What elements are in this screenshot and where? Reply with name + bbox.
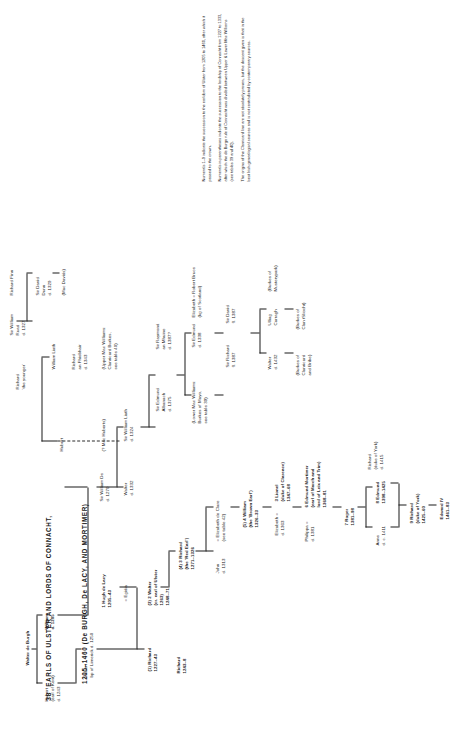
node-sir-david-1387: Sir David fl. 1387 <box>224 305 236 323</box>
node-william-1205: William d. 1205 <box>43 613 55 629</box>
node-sir-edmund-1338: Sir Edmund d. 1338 <box>190 323 202 347</box>
connector <box>428 504 436 505</box>
note-2: Numerals in parentheses indicate the suc… <box>216 13 234 181</box>
chart-title: 38 EARLS OF ULSTER AND LORDS OF CONNACHT… <box>18 503 108 731</box>
connector <box>75 649 76 683</box>
chart-canvas: 38 EARLS OF ULSTER AND LORDS OF CONNACHT… <box>0 0 475 741</box>
connector <box>365 486 372 487</box>
node-walter-1432: Walter d. 1432 <box>266 354 278 369</box>
node-william-brown-earl: (5) 4 William (the 'Brown Earl') 1326–33 <box>241 490 259 527</box>
node-john-de-burgh: John d. 1313 <box>214 558 226 573</box>
chart-notes: Numerals 1–9 indicate the succession to … <box>200 13 255 181</box>
connector <box>292 506 301 507</box>
connector <box>390 482 398 483</box>
node-edmund-mortimer: 6 Edmund Mortimer (earl of March and lor… <box>303 461 327 507</box>
connector <box>195 550 205 551</box>
node-richard-duke-york: 9 Richard (duke of York) 1425–60 <box>408 493 426 523</box>
node-upper-mac-williams: (Upper Mac Williams: Clanricard Burkes, … <box>100 326 118 369</box>
node-mac-hubert: (? Mac Huberts) <box>100 419 106 451</box>
node-ulliag-carragh: Ulliag Carragh <box>266 309 278 325</box>
connector <box>87 487 88 615</box>
connector <box>136 648 144 649</box>
node-richard-finn: Richard Finn <box>8 269 14 295</box>
node-richard-york-1415: Richard (duke of York) d. 1415 <box>366 441 384 469</box>
note-1: Numerals 1–9 indicate the succession to … <box>200 13 212 181</box>
connector <box>284 308 293 309</box>
connector <box>52 272 59 273</box>
connector <box>205 507 206 551</box>
connector <box>41 357 42 441</box>
connector <box>214 332 223 333</box>
node-mac-davids: (Mac Davids) <box>60 268 66 295</box>
connector <box>36 614 42 615</box>
connector <box>31 648 36 649</box>
node-richard-fhiobhair: Richard an Fhiobhair d. 1343 <box>70 344 88 369</box>
node-elizabeth-robert-bruce: Elizabeth = Robert Bruce (kg of Scotland… <box>190 267 202 318</box>
node-anne-1411: Anne d. c. 1411 <box>374 525 386 545</box>
connector <box>262 506 271 507</box>
connector <box>184 333 185 395</box>
connector <box>168 550 175 551</box>
connector <box>148 426 155 427</box>
connector <box>365 487 366 527</box>
node-walter-earl-ulster: (3) 2 Walter (cr. earl of Ulster 1263) 1… <box>146 569 170 605</box>
node-edmund-1398-1425: 8 Edmund 1398–1425 <box>374 480 386 503</box>
node-hubert-earl-kent: Hubert (earl of Kent) d. 1243 <box>43 675 61 701</box>
connector <box>398 504 406 505</box>
node-walter-de-burgh-top: Walter de Burgh <box>24 630 30 665</box>
dashed-connector <box>57 440 119 441</box>
node-walter-de-burgh-col: Walter d. 1332 <box>122 480 134 495</box>
node-egidia: = Egidia <box>122 584 128 601</box>
connector <box>284 352 293 353</box>
node-sir-william-ruad: Sir William Ruad d. 1327 <box>8 314 26 335</box>
title-line1: EARLS OF ULSTER AND LORDS OF CONNACHT, <box>44 515 51 686</box>
node-sir-william-liath: Sir William Liath d. 1324 <box>122 408 134 441</box>
connector <box>57 614 87 615</box>
connector <box>148 375 149 427</box>
connector <box>176 374 184 375</box>
genealogy-chart-page: 38 EARLS OF ULSTER AND LORDS OF CONNACHT… <box>0 0 475 741</box>
node-richard-1243-8: Richard 1243–8 <box>175 656 187 673</box>
node-sir-edmund-albanach: Sir Edmund Albanach d. 1375 <box>154 387 172 411</box>
connector <box>259 308 266 309</box>
node-sir-william-de: Sir William De d. 1270 <box>98 473 110 502</box>
node-sir-raymond-mhuine: Sir Raymond an Mhuine d. 1387? <box>154 323 172 349</box>
connector <box>41 440 57 441</box>
node-richard-red-earl: (4) 3 Richard (the 'Red Earl') 1271–1326 <box>177 537 195 569</box>
connector <box>26 272 32 273</box>
connector <box>148 374 155 375</box>
connector <box>214 394 223 395</box>
node-philippa-1381: Philippa = d. 1381 <box>303 521 315 541</box>
connector <box>75 648 81 649</box>
node-hugh-de-lacy: 1 Hugh de Lacy 1205–43 <box>100 574 112 607</box>
node-roger-1381-98: 7 Roger 1381–98 <box>343 507 355 525</box>
note-3: The origins of the Clanricard line are n… <box>239 13 251 181</box>
node-richard-younger: Richard 'the younger' <box>14 363 26 389</box>
node-sir-david-dunn: Sir David Dunn d. 1329 <box>34 277 52 295</box>
connector <box>140 426 148 427</box>
connector <box>96 648 136 649</box>
node-lionel-clarence: 3 Lionel (duke of Clarence) 1347–68 <box>273 462 291 501</box>
connector <box>332 506 341 507</box>
connector <box>41 356 49 357</box>
connector <box>230 506 239 507</box>
connector <box>36 615 37 683</box>
node-sir-richard-1387: Sir Richard fl. 1387 <box>224 345 236 367</box>
node-burkes-mustearpark: (Burkes of Musterypark) <box>266 265 278 291</box>
connector <box>36 682 42 683</box>
node-elizabeth-de-clare: = Elizabeth de Clare (see table 42) <box>214 500 226 541</box>
connector <box>259 352 266 353</box>
connector <box>26 320 32 321</box>
node-richard-1227-43: (1) Richard 1227–43 <box>146 647 158 671</box>
node-hubert-bp-limerick: Hubert bp of Limerick d. 1250 <box>82 632 94 677</box>
connector <box>136 587 137 649</box>
node-elizabeth-1363: Elizabeth = d. 1363 <box>273 512 285 535</box>
connector <box>116 427 117 487</box>
connector <box>250 332 259 333</box>
node-hubert-upper: Hubert <box>58 437 64 451</box>
connector <box>259 309 260 353</box>
node-william-liath-upper: William Liath <box>50 343 56 369</box>
connector <box>365 526 372 527</box>
connector <box>357 506 365 507</box>
node-edward-iv: Edward IV 1461–83 <box>438 497 450 519</box>
